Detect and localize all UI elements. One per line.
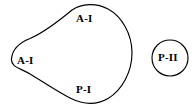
region-label-p1: P-I [76,84,91,95]
region-label-a1-left: A-I [17,55,34,66]
region-label-a1-top: A-I [76,13,93,24]
diagram-canvas: A-I A-I P-I P-II [0,0,194,107]
region-label-p2: P-II [158,52,178,63]
